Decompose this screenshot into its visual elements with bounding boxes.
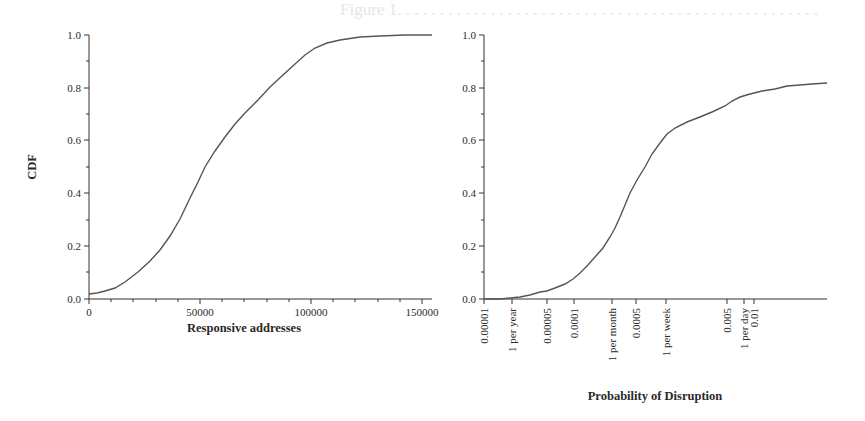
x-tick-label: 0.0001: [568, 308, 580, 338]
left-cdf-line: [89, 35, 432, 294]
y-tick-label: 1.0: [462, 29, 476, 41]
left-x-axis: [89, 299, 432, 304]
x-tick-label: 0.0005: [630, 308, 642, 339]
y-tick-label: 0.4: [462, 187, 476, 199]
y-tick-label: 0.0: [462, 293, 476, 305]
x-tick-label: 150000: [406, 306, 440, 318]
figure: 1.0 0.8 0.6 0.4 0.2 0.0 0 50000 100000 1…: [0, 0, 865, 421]
left-x-tick-labels: 0 50000 100000 150000: [86, 306, 439, 318]
right-y-tick-labels: 1.0 0.8 0.6 0.4 0.2 0.0: [462, 29, 476, 305]
x-tick-label: 0.005: [721, 308, 733, 333]
y-tick-label: 1.0: [67, 29, 81, 41]
x-tick-label: 1 per month: [606, 308, 618, 362]
y-tick-label: 0.8: [462, 82, 476, 94]
left-y-tick-labels: 1.0 0.8 0.6 0.4 0.2 0.0: [67, 29, 81, 305]
y-tick-label: 0.0: [67, 293, 81, 305]
left-chart: 1.0 0.8 0.6 0.4 0.2 0.0 0 50000 100000 1…: [25, 29, 439, 335]
x-tick-label: 1 per week: [660, 308, 672, 357]
x-tick-label: 0.00005: [541, 308, 553, 344]
y-tick-label: 0.8: [67, 82, 81, 94]
y-tick-label: 0.4: [67, 187, 81, 199]
right-y-axis: [479, 35, 484, 299]
x-tick-label: 1 per year: [506, 308, 518, 352]
left-y-axis-title: CDF: [25, 154, 39, 180]
y-tick-label: 0.6: [462, 134, 476, 146]
right-cdf-line: [484, 83, 827, 299]
x-tick-label: 100000: [295, 306, 329, 318]
left-x-axis-title: Responsive addresses: [187, 321, 301, 335]
y-tick-label: 0.2: [67, 240, 81, 252]
right-x-axis-title: Probability of Disruption: [588, 389, 723, 403]
x-tick-label: 0.01: [748, 308, 760, 327]
right-x-axis: [484, 299, 827, 304]
x-tick-label: 0: [86, 306, 92, 318]
right-x-tick-labels: 0.00001 1 per year 0.00005 0.0001 1 per …: [478, 308, 760, 362]
x-tick-label: 0.00001: [478, 308, 490, 344]
x-tick-label: 50000: [186, 306, 214, 318]
y-tick-label: 0.6: [67, 134, 81, 146]
left-y-axis: [84, 35, 89, 299]
y-tick-label: 0.2: [462, 240, 476, 252]
right-chart: 1.0 0.8 0.6 0.4 0.2 0.0 0.00001 1 per ye…: [462, 29, 827, 403]
